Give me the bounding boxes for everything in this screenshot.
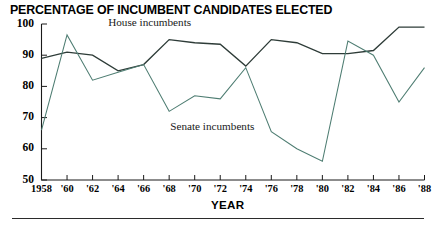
bottom-divider bbox=[12, 218, 424, 219]
x-tick-label: '72 bbox=[214, 183, 227, 194]
chart-figure: PERCENTAGE OF INCUMBENT CANDIDATES ELECT… bbox=[0, 0, 436, 231]
x-tick-label: '84 bbox=[367, 183, 380, 194]
plot-area bbox=[0, 0, 436, 231]
series-line-house bbox=[42, 27, 425, 71]
x-tick-label: '82 bbox=[341, 183, 354, 194]
x-tick-label: '86 bbox=[392, 183, 405, 194]
x-axis-title: YEAR bbox=[211, 198, 244, 211]
series-line-senate bbox=[42, 35, 425, 161]
axis-lines bbox=[42, 24, 425, 180]
y-tick-label: 70 bbox=[8, 110, 34, 122]
x-tick-label: '80 bbox=[316, 183, 329, 194]
x-tick-label: '64 bbox=[111, 183, 124, 194]
series-label-senate: Senate incumbents bbox=[170, 120, 254, 132]
x-tick-label: '66 bbox=[137, 183, 150, 194]
x-tick-label: '60 bbox=[60, 183, 73, 194]
y-tick-label: 90 bbox=[8, 48, 34, 60]
x-tick-label: '70 bbox=[188, 183, 201, 194]
y-tick-label: 100 bbox=[8, 17, 34, 29]
axes bbox=[42, 24, 425, 180]
x-tick-label: '88 bbox=[418, 183, 431, 194]
x-tick-label: '74 bbox=[239, 183, 252, 194]
x-tick-marks bbox=[42, 175, 425, 180]
x-tick-label: '62 bbox=[86, 183, 99, 194]
x-tick-label: '68 bbox=[163, 183, 176, 194]
x-tick-label: '78 bbox=[290, 183, 303, 194]
y-tick-marks bbox=[42, 24, 48, 180]
series-label-house: House incumbents bbox=[108, 16, 191, 28]
x-tick-label: 1958 bbox=[31, 183, 52, 194]
y-tick-label: 60 bbox=[8, 141, 34, 153]
y-tick-label: 80 bbox=[8, 79, 34, 91]
y-tick-label: 50 bbox=[8, 173, 34, 185]
data-series-group bbox=[42, 27, 425, 161]
x-tick-label: '76 bbox=[265, 183, 278, 194]
